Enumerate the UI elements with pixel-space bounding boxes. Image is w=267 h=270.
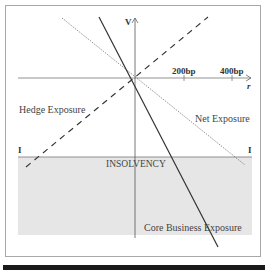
insolvency-marker-right: I bbox=[248, 146, 252, 155]
hedge-exposure-line bbox=[26, 17, 208, 167]
y-axis-label: V bbox=[125, 18, 132, 27]
tick-label-200bp: 200bp bbox=[172, 67, 196, 76]
hedge-exposure-label: Hedge Exposure bbox=[19, 105, 85, 115]
tick-label-400bp: 400bp bbox=[220, 67, 244, 76]
insolvency-label: INSOLVENCY bbox=[106, 160, 166, 170]
insolvency-marker-left: I bbox=[18, 146, 22, 155]
bottom-rule bbox=[3, 265, 265, 270]
x-axis-label: r bbox=[247, 82, 251, 91]
net-exposure-label: Net Exposure bbox=[195, 114, 250, 124]
net-exposure-line bbox=[62, 18, 245, 165]
core-business-exposure-label: Core Business Exposure bbox=[144, 223, 242, 233]
